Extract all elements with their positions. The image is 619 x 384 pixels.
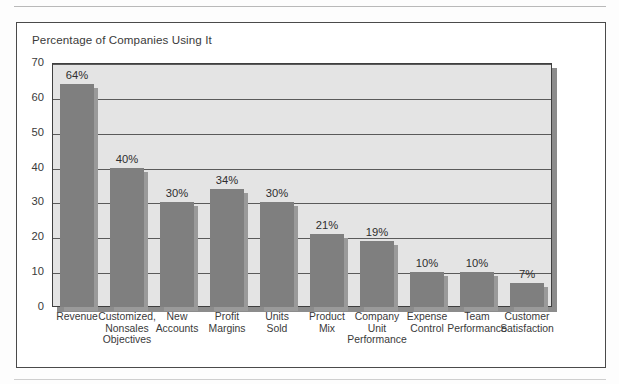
bottom-divider-rule (14, 379, 606, 380)
bar-value-label: 40% (103, 153, 151, 165)
bar[interactable] (210, 189, 244, 308)
bar-value-label: 34% (203, 174, 251, 186)
y-tick-label-40: 40 (0, 161, 44, 173)
bar-series: 64%40%30%34%30%21%19%10%10%7% (52, 63, 552, 307)
bar[interactable] (60, 84, 94, 307)
bar[interactable] (160, 202, 194, 307)
chart-title: Percentage of Companies Using It (32, 33, 212, 46)
bar[interactable] (260, 202, 294, 307)
bar-value-label: 19% (353, 226, 401, 238)
x-category-label-line: Customer (495, 311, 559, 323)
x-category-label: CustomerSatisfaction (495, 311, 559, 334)
y-tick-label-20: 20 (0, 230, 44, 242)
y-tick-label-0: 0 (0, 300, 44, 312)
chart-page: Percentage of Companies Using It 0102030… (0, 0, 619, 384)
bar-value-label: 10% (403, 257, 451, 269)
bar[interactable] (460, 272, 494, 307)
y-tick-label-10: 10 (0, 265, 44, 277)
bar[interactable] (360, 241, 394, 307)
bar-value-label: 10% (453, 257, 501, 269)
bar-value-label: 30% (153, 187, 201, 199)
bar-value-label: 7% (503, 268, 551, 280)
bar-value-label: 64% (53, 69, 101, 81)
bar[interactable] (410, 272, 444, 307)
top-divider-rule (14, 6, 606, 7)
x-category-label-line: Objectives (95, 334, 159, 346)
bar[interactable] (510, 283, 544, 307)
y-tick-label-30: 30 (0, 195, 44, 207)
x-category-label-line: Satisfaction (495, 323, 559, 335)
y-tick-label-60: 60 (0, 91, 44, 103)
bar[interactable] (310, 234, 344, 307)
bar[interactable] (110, 168, 144, 307)
bar-value-label: 21% (303, 219, 351, 231)
x-category-label-line: Performance (345, 334, 409, 346)
bar-value-label: 30% (253, 187, 301, 199)
y-tick-label-50: 50 (0, 126, 44, 138)
y-axis-tick-labels: 010203040506070 (0, 0, 52, 384)
y-tick-label-70: 70 (0, 56, 44, 68)
